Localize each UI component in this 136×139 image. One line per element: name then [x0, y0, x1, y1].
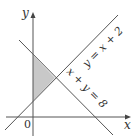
y-axis-arrow-icon	[31, 12, 36, 18]
y-axis-label: y	[21, 6, 29, 20]
origin-label: 0	[24, 118, 31, 131]
diagram-canvas: y x 0 y = x + 2 x + y = 8	[0, 0, 136, 139]
shaded-region	[33, 55, 55, 101]
line-y-equals-x-plus-2	[5, 15, 118, 130]
label-x-plus-y-equals-8: x + y = 8	[64, 65, 110, 111]
x-axis-label: x	[124, 118, 131, 132]
